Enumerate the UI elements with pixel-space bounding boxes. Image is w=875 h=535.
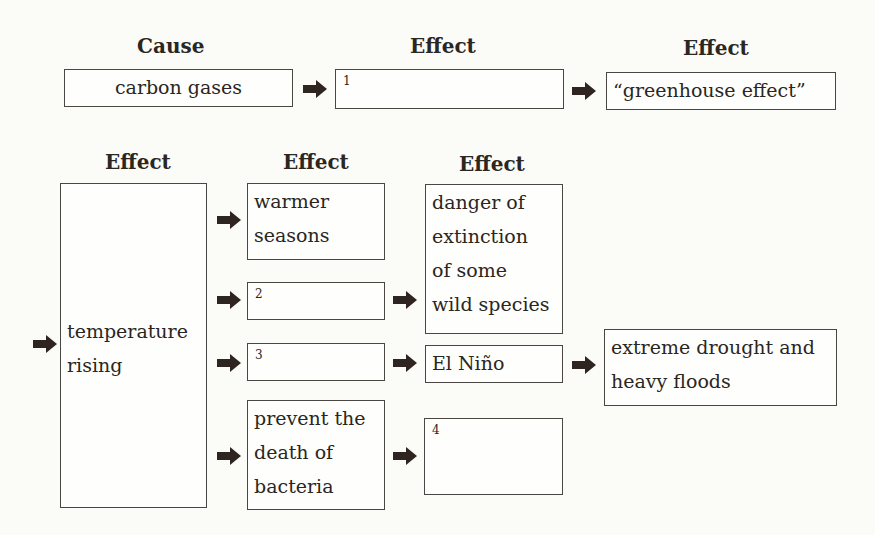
temperature-rising-text-1: temperature xyxy=(67,314,188,348)
greenhouse-effect-text: “greenhouse effect” xyxy=(613,79,806,101)
drought-floods-box: extreme drought and heavy floods xyxy=(604,329,837,406)
effect-header-5: Effect xyxy=(459,152,525,176)
warmer-seasons-text-2: seasons xyxy=(254,218,378,252)
blank-number-1: 1 xyxy=(343,70,556,90)
arrow-icon xyxy=(217,447,241,465)
drought-text-1: extreme drought and xyxy=(611,330,830,364)
arrow-icon xyxy=(217,354,241,372)
danger-text-2: extinction xyxy=(432,219,556,253)
prevent-text-3: bacteria xyxy=(254,469,378,503)
blank-box-2[interactable]: 2 xyxy=(247,282,385,320)
danger-text-1: danger of xyxy=(432,185,556,219)
prevent-text-2: death of xyxy=(254,435,378,469)
arrow-icon xyxy=(393,291,417,309)
blank-number-4: 4 xyxy=(432,419,555,439)
carbon-gases-text: carbon gases xyxy=(115,76,242,98)
arrow-icon xyxy=(217,211,241,229)
greenhouse-effect-box: “greenhouse effect” xyxy=(606,72,836,110)
arrow-icon xyxy=(393,354,417,372)
extinction-danger-box: danger of extinction of some wild specie… xyxy=(425,184,563,334)
temperature-rising-text-2: rising xyxy=(67,348,188,382)
arrow-icon xyxy=(393,447,417,465)
el-nino-text: El Niño xyxy=(432,352,504,374)
effect-header-1: Effect xyxy=(410,34,476,58)
blank-number-2: 2 xyxy=(255,283,377,303)
arrow-icon xyxy=(572,356,596,374)
drought-text-2: heavy floods xyxy=(611,364,830,398)
el-nino-box: El Niño xyxy=(425,345,563,383)
temperature-rising-box: temperature rising xyxy=(60,183,207,508)
effect-header-2: Effect xyxy=(683,36,749,60)
effect-header-3: Effect xyxy=(105,150,171,174)
cause-header: Cause xyxy=(137,34,204,58)
arrow-icon xyxy=(303,80,327,98)
warmer-seasons-text-1: warmer xyxy=(254,184,378,218)
danger-text-3: of some xyxy=(432,253,556,287)
carbon-gases-box: carbon gases xyxy=(64,69,293,107)
arrow-icon xyxy=(217,291,241,309)
arrow-icon xyxy=(33,335,57,353)
blank-box-1[interactable]: 1 xyxy=(335,69,564,109)
blank-number-3: 3 xyxy=(255,344,377,364)
prevent-bacteria-death-box: prevent the death of bacteria xyxy=(247,400,385,510)
warmer-seasons-box: warmer seasons xyxy=(247,183,385,260)
effect-header-4: Effect xyxy=(283,150,349,174)
blank-box-4[interactable]: 4 xyxy=(424,418,563,495)
danger-text-4: wild species xyxy=(432,287,556,321)
blank-box-3[interactable]: 3 xyxy=(247,343,385,381)
arrow-icon xyxy=(572,82,596,100)
prevent-text-1: prevent the xyxy=(254,401,378,435)
